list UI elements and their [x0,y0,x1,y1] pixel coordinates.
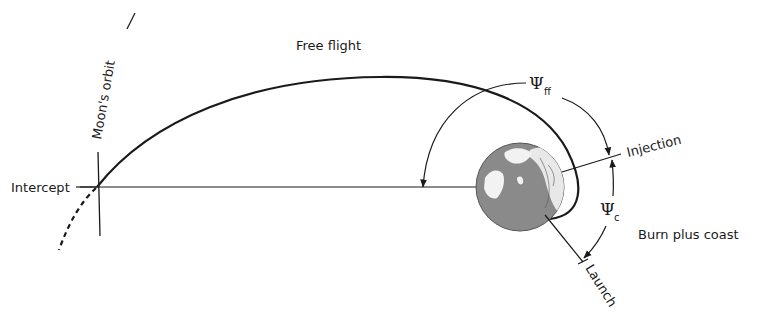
psi-c-arc-top [612,160,613,196]
psi-c-label: Ψ c [600,199,620,223]
psi-c-arc-bottom [584,226,606,258]
psi-c-subscript: c [614,212,620,223]
moons-orbit-top-segment [127,13,135,29]
psi-ff-symbol: Ψ [529,73,544,93]
moons-orbit-label: Moon's orbit [89,59,118,140]
lunar-trajectory-diagram: Free flight Moon's orbit Intercept Injec… [0,0,760,325]
burn-plus-coast-label: Burn plus coast [638,227,739,242]
free-flight-label: Free flight [296,38,361,53]
moons-orbit-tick [98,152,100,236]
launch-line [545,215,583,262]
launch-tick [578,259,588,264]
injection-label: Injection [625,132,683,160]
psi-ff-subscript: ff [544,86,552,97]
psi-ff-label: Ψ ff [529,73,552,97]
psi-ff-arc-right [562,98,609,155]
intercept-label: Intercept [11,180,70,195]
launch-label: Launch [582,262,620,310]
psi-c-symbol: Ψ [600,199,615,219]
moons-orbit-dashed-arc [59,188,96,250]
